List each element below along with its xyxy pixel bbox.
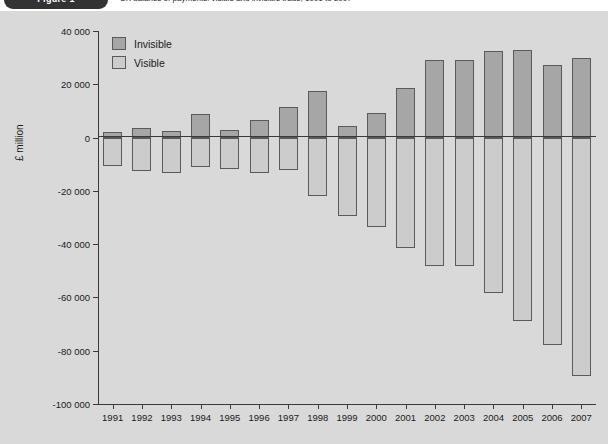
x-tick-label: 1992 xyxy=(131,412,152,423)
y-tick-label: 40 000 xyxy=(28,26,90,37)
x-tick-mark xyxy=(581,404,582,409)
bar-visible-1994 xyxy=(191,138,210,167)
x-tick-mark xyxy=(259,404,260,409)
x-tick-label: 1994 xyxy=(190,412,211,423)
y-tick-label: -20 000 xyxy=(28,185,90,196)
bar-invisible-2001 xyxy=(396,88,415,138)
bar-visible-2007 xyxy=(572,138,591,377)
y-tick-label: -40 000 xyxy=(28,239,90,250)
x-tick-label: 1998 xyxy=(307,412,328,423)
bar-visible-1998 xyxy=(308,138,327,197)
y-tick-label: -80 000 xyxy=(28,345,90,356)
x-tick-mark xyxy=(318,404,319,409)
x-tick-mark xyxy=(171,404,172,409)
x-tick-label: 2005 xyxy=(512,412,533,423)
bar-invisible-2000 xyxy=(367,113,386,138)
x-tick-label: 1996 xyxy=(249,412,270,423)
legend-label-invisible: Invisible xyxy=(134,36,172,52)
x-tick-label: 1995 xyxy=(219,412,240,423)
y-tick-label: -100 000 xyxy=(28,399,90,410)
x-tick-label: 2003 xyxy=(454,412,475,423)
bar-invisible-1998 xyxy=(308,91,327,138)
y-axis-line xyxy=(98,31,99,404)
figure-caption: UK balance of payments: visible and invi… xyxy=(120,0,590,8)
x-tick-label: 2007 xyxy=(571,412,592,423)
bar-visible-1996 xyxy=(250,138,269,173)
x-tick-mark xyxy=(523,404,524,409)
bar-invisible-2004 xyxy=(484,51,503,138)
bar-visible-1999 xyxy=(338,138,357,217)
y-tick-label: -60 000 xyxy=(28,292,90,303)
plot-area: £ million 40 00020 0000-20 000-40 000-60… xyxy=(0,11,608,444)
bar-visible-1992 xyxy=(132,138,151,172)
bar-visible-1995 xyxy=(220,138,239,169)
zero-baseline xyxy=(98,136,596,137)
bar-visible-2001 xyxy=(396,138,415,248)
figure-badge: Figure 1 xyxy=(4,0,108,9)
x-tick-mark xyxy=(113,404,114,409)
x-tick-mark xyxy=(142,404,143,409)
figure-header-strip: Figure 1 UK balance of payments: visible… xyxy=(0,0,608,11)
x-tick-mark xyxy=(230,404,231,409)
x-tick-label: 1997 xyxy=(278,412,299,423)
x-tick-mark xyxy=(493,404,494,409)
bar-invisible-1994 xyxy=(191,114,210,137)
bar-visible-2006 xyxy=(543,138,562,346)
bar-visible-2002 xyxy=(425,138,444,267)
y-tick-label: 0 xyxy=(28,132,90,143)
bar-invisible-2005 xyxy=(513,50,532,138)
x-tick-label: 2004 xyxy=(483,412,504,423)
x-tick-mark xyxy=(376,404,377,409)
bar-visible-1993 xyxy=(162,138,181,173)
x-tick-label: 2001 xyxy=(395,412,416,423)
bar-invisible-2003 xyxy=(455,60,474,137)
legend-swatch-visible xyxy=(112,56,126,69)
bar-invisible-2006 xyxy=(543,65,562,137)
figure-badge-label: Figure 1 xyxy=(4,0,108,9)
legend-swatch-invisible xyxy=(112,37,126,50)
y-axis-title: £ million xyxy=(14,41,25,161)
x-tick-label: 2000 xyxy=(366,412,387,423)
x-tick-label: 1999 xyxy=(336,412,357,423)
bar-visible-2005 xyxy=(513,138,532,321)
x-tick-mark xyxy=(288,404,289,409)
legend-label-visible: Visible xyxy=(134,55,165,71)
bar-visible-2000 xyxy=(367,138,386,228)
x-tick-label: 2006 xyxy=(541,412,562,423)
x-tick-mark xyxy=(406,404,407,409)
x-tick-mark xyxy=(552,404,553,409)
bar-invisible-2007 xyxy=(572,58,591,138)
x-tick-label: 1991 xyxy=(102,412,123,423)
x-tick-mark xyxy=(435,404,436,409)
x-tick-mark xyxy=(464,404,465,409)
bar-invisible-2002 xyxy=(425,60,444,137)
x-tick-label: 1993 xyxy=(161,412,182,423)
y-tick-label: 20 000 xyxy=(28,79,90,90)
bar-visible-2003 xyxy=(455,138,474,266)
bar-visible-1991 xyxy=(103,138,122,166)
x-tick-label: 2002 xyxy=(424,412,445,423)
bar-invisible-1997 xyxy=(279,107,298,138)
x-tick-mark xyxy=(201,404,202,409)
bar-visible-1997 xyxy=(279,138,298,170)
bar-visible-2004 xyxy=(484,138,503,293)
bar-invisible-1996 xyxy=(250,120,269,138)
x-tick-mark xyxy=(347,404,348,409)
chart-panel: £ million 40 00020 0000-20 000-40 000-60… xyxy=(0,11,608,444)
